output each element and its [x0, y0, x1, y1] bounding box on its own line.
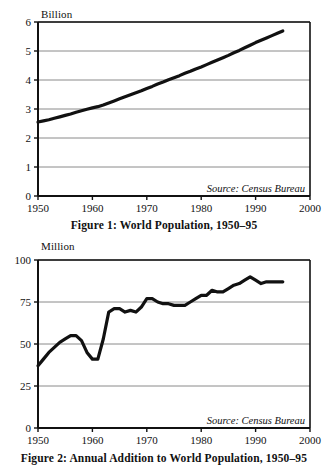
y-tick-label: 100 — [15, 254, 32, 266]
x-tick-label: 1950 — [27, 434, 50, 446]
figure-1-plot: 0123456 195019601970198019902000 Source:… — [0, 0, 328, 214]
x-tick-label: 1960 — [81, 434, 104, 446]
y-tick-label: 1 — [26, 161, 32, 173]
y-tick-label: 50 — [20, 338, 32, 350]
figure-2-data-series — [38, 277, 283, 366]
x-tick-label: 2000 — [299, 202, 322, 214]
figure-2-gridlines — [38, 260, 310, 386]
x-tick-label: 1970 — [136, 434, 159, 446]
x-tick-label: 2000 — [299, 434, 322, 446]
figure-1-xtick-labels: 195019601970198019902000 — [27, 202, 322, 214]
y-tick-label: 75 — [20, 296, 32, 308]
figure-1-source-note: Source: Census Bureau — [207, 183, 305, 194]
figure-1-ytick-labels: 0123456 — [26, 16, 32, 202]
x-tick-label: 1950 — [27, 202, 50, 214]
figure-2-caption: Figure 2: Annual Addition to World Popul… — [0, 452, 328, 464]
figure-2: Million 0255075100 195019601970198019902… — [0, 238, 328, 470]
y-tick-label: 3 — [26, 103, 32, 115]
y-tick-label: 4 — [26, 74, 32, 86]
figure-2-ticks — [34, 260, 310, 432]
figure-1-caption: Figure 1: World Population, 1950–95 — [0, 219, 328, 231]
x-tick-label: 1960 — [81, 202, 104, 214]
y-tick-label: 5 — [26, 45, 32, 57]
figure-1-gridlines — [38, 22, 310, 167]
y-tick-label: 0 — [26, 422, 32, 434]
figure-2-xtick-labels: 195019601970198019902000 — [27, 434, 322, 446]
y-tick-label: 25 — [20, 380, 32, 392]
y-tick-label: 0 — [26, 190, 32, 202]
x-tick-label: 1980 — [190, 434, 213, 446]
figure-1-data-series — [38, 31, 283, 122]
figure-1: Billion 0123456 195019601970198019902000… — [0, 0, 328, 238]
y-tick-label: 2 — [26, 132, 32, 144]
x-tick-label: 1990 — [245, 202, 268, 214]
figure-2-plot: 0255075100 195019601970198019902000 Sour… — [0, 238, 328, 446]
y-tick-label: 6 — [26, 16, 32, 28]
figure-2-source-note: Source: Census Bureau — [207, 415, 305, 426]
figure-2-ytick-labels: 0255075100 — [15, 254, 32, 434]
figure-page: { "page": { "background": "#ffffff", "in… — [0, 0, 328, 470]
x-tick-label: 1990 — [245, 434, 268, 446]
x-tick-label: 1970 — [136, 202, 159, 214]
x-tick-label: 1980 — [190, 202, 213, 214]
